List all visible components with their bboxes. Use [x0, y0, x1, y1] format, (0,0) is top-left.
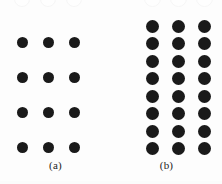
dot: [172, 142, 185, 155]
ghost-circle: [66, 0, 82, 7]
dot: [146, 55, 159, 68]
dot: [43, 37, 54, 48]
dot: [146, 107, 159, 120]
dot-grid-a: [9, 25, 72, 141]
ghost-circle-row-b: [144, 0, 213, 7]
dot: [172, 20, 185, 33]
dot: [172, 107, 185, 120]
dot: [172, 72, 185, 85]
dot: [146, 142, 159, 155]
ghost-circle: [40, 0, 56, 7]
dot: [146, 20, 159, 33]
ghost-circle: [144, 0, 161, 7]
dot: [69, 107, 80, 118]
ghost-circle-row-a: [14, 0, 82, 7]
dot: [198, 107, 211, 120]
dot: [198, 55, 211, 68]
dot: [172, 55, 185, 68]
ghost-circle: [196, 0, 213, 7]
dot: [172, 37, 185, 50]
dot: [43, 72, 54, 83]
dot: [146, 37, 159, 50]
ghost-circle: [170, 0, 187, 7]
dot: [198, 72, 211, 85]
dot: [17, 107, 28, 118]
dot: [146, 90, 159, 103]
panel-a: (a): [0, 0, 111, 184]
dot: [198, 125, 211, 138]
dot: [146, 72, 159, 85]
dot: [17, 72, 28, 83]
dot: [172, 125, 185, 138]
dot: [146, 125, 159, 138]
dot: [172, 90, 185, 103]
panel-label-b: (b): [111, 159, 222, 171]
figure-root: (a) (b): [0, 0, 222, 184]
dot: [198, 90, 211, 103]
dot: [69, 142, 80, 153]
dot: [198, 37, 211, 50]
dot: [43, 107, 54, 118]
dot: [69, 72, 80, 83]
dot: [17, 37, 28, 48]
dot: [17, 142, 28, 153]
dot: [198, 20, 211, 33]
dot: [198, 142, 211, 155]
ghost-circle: [14, 0, 30, 7]
dot-grid-b: [139, 17, 204, 153]
panel-label-a: (a): [0, 159, 111, 171]
dot: [43, 142, 54, 153]
dot: [69, 37, 80, 48]
panel-b: (b): [111, 0, 222, 184]
